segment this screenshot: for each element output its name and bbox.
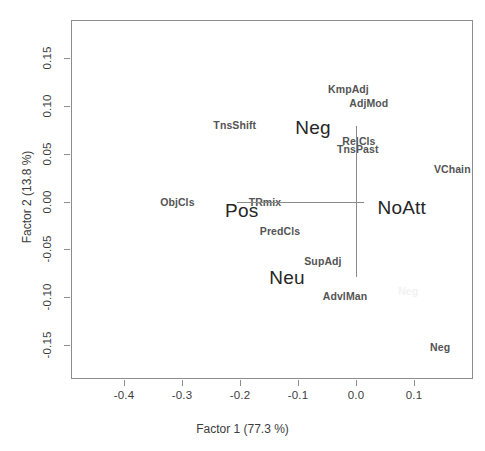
y-tick-mark xyxy=(64,297,70,298)
y-tick-mark xyxy=(64,345,70,346)
y-tick-mark xyxy=(64,58,70,59)
x-tick-label: -0.2 xyxy=(230,389,251,401)
x-tick-label: -0.1 xyxy=(288,389,309,401)
y-axis-title: Factor 2 (13.8 %) xyxy=(20,87,34,307)
y-tick-label: -0.05 xyxy=(41,236,53,263)
point-label-objcls-7: ObjCls xyxy=(160,196,194,207)
y-tick-label: 0.10 xyxy=(41,94,53,117)
point-label-adjmod-1: AdjMod xyxy=(349,98,388,109)
x-tick-mark xyxy=(124,380,125,386)
y-tick-mark xyxy=(64,202,70,203)
y-tick-label: -0.10 xyxy=(41,283,53,310)
x-tick-label: -0.4 xyxy=(114,389,135,401)
x-tick-mark xyxy=(182,380,183,386)
x-tick-mark xyxy=(298,380,299,386)
point-label-supadj-12: SupAdj xyxy=(304,256,341,267)
y-tick-label: 0.15 xyxy=(41,47,53,70)
y-tick-mark xyxy=(64,249,70,250)
y-tick-label: -0.15 xyxy=(41,331,53,358)
y-tick-label: 0.00 xyxy=(41,190,53,213)
point-label-neg-3: Neg xyxy=(295,117,330,136)
point-label-predcls-11: PredCls xyxy=(260,226,300,237)
point-label-pos-9: Pos xyxy=(225,201,258,220)
x-tick-label: -0.3 xyxy=(172,389,193,401)
vertical-origin-line xyxy=(356,126,357,277)
point-label-vchain-6: VChain xyxy=(434,164,471,175)
x-tick-mark xyxy=(414,380,415,386)
x-axis-title: Factor 1 (77.3 %) xyxy=(0,422,485,436)
x-tick-label: 0.0 xyxy=(348,389,365,401)
x-tick-mark xyxy=(240,380,241,386)
point-label-neu-13: Neu xyxy=(269,268,304,287)
y-tick-mark xyxy=(64,106,70,107)
point-label-noatt-10: NoAtt xyxy=(378,198,427,217)
point-label-tnspast-5: TnsPast xyxy=(337,144,379,155)
factor-plot-figure: -0.4-0.3-0.2-0.10.00.1 -0.15-0.10-0.050.… xyxy=(0,0,485,451)
x-tick-mark xyxy=(356,380,357,386)
point-label-neg-16: Neg xyxy=(398,286,418,297)
y-tick-label: 0.05 xyxy=(41,142,53,165)
point-label-kmpadj-0: KmpAdj xyxy=(328,83,369,94)
x-tick-label: 0.1 xyxy=(406,389,423,401)
horizontal-origin-line xyxy=(237,202,365,203)
point-label-tnsshift-2: TnsShift xyxy=(213,120,256,131)
point-label-advlman-14: AdvlMan xyxy=(323,291,367,302)
y-tick-mark xyxy=(64,154,70,155)
point-label-neg-15: Neg xyxy=(430,342,450,353)
